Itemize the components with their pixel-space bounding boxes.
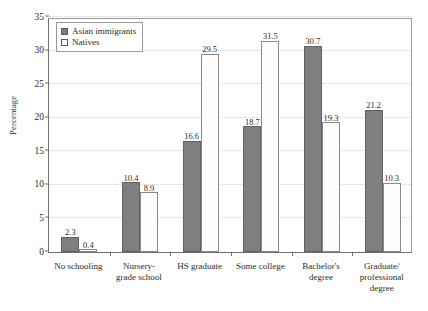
bar: 2.3 xyxy=(61,237,79,252)
x-tick-mark xyxy=(110,252,111,256)
y-tick-label: 10 xyxy=(35,180,45,190)
bar-chart-figure: Percentage 05101520253035 2.30.410.48.91… xyxy=(0,0,428,311)
y-tick-mark xyxy=(45,183,49,184)
y-tick-label: 0 xyxy=(39,247,44,257)
filled-square-swatch xyxy=(61,28,68,35)
y-tick-mark xyxy=(45,116,49,117)
x-tick-mark xyxy=(292,252,293,256)
bar: 18.7 xyxy=(243,126,261,252)
x-tick-label: HS graduate xyxy=(169,261,230,272)
x-tick-label: No schooling xyxy=(48,261,109,272)
y-tick-mark xyxy=(45,217,49,218)
y-tick-label: 20 xyxy=(35,113,45,123)
bar-value-label: 31.5 xyxy=(263,32,278,41)
bar-value-label: 8.9 xyxy=(144,184,155,193)
y-tick-mark xyxy=(45,49,49,50)
x-tick-label: Some college xyxy=(230,261,291,272)
y-tick-mark xyxy=(45,251,49,252)
bar-value-label: 18.7 xyxy=(245,118,260,127)
plot-area: 05101520253035 2.30.410.48.916.629.518.7… xyxy=(48,18,412,253)
bar-value-label: 2.3 xyxy=(65,228,76,237)
open-square-swatch xyxy=(61,39,68,46)
bar: 0.4 xyxy=(79,249,97,252)
bar: 21.2 xyxy=(365,110,383,252)
bar-value-label: 10.3 xyxy=(384,174,399,183)
y-tick-mark xyxy=(45,150,49,151)
bar-value-label: 10.4 xyxy=(124,174,139,183)
bar-value-label: 30.7 xyxy=(306,37,321,46)
x-tick-mark xyxy=(352,252,353,256)
legend-item-natives: Natives xyxy=(61,37,136,48)
legend-label: Asian immigrants xyxy=(72,26,136,37)
bar: 10.3 xyxy=(383,183,401,252)
y-tick-label: 5 xyxy=(39,214,44,224)
bar-value-label: 16.6 xyxy=(184,132,199,141)
bar: 29.5 xyxy=(201,54,219,252)
x-tick-mark xyxy=(231,252,232,256)
legend-item-asian-immigrants: Asian immigrants xyxy=(61,26,136,37)
x-tick-mark xyxy=(170,252,171,256)
y-tick-label: 30 xyxy=(35,46,45,56)
legend-label: Natives xyxy=(72,37,100,48)
gridline xyxy=(49,16,411,17)
y-tick-label: 15 xyxy=(35,147,45,157)
chart-legend: Asian immigrants Natives xyxy=(56,22,143,52)
bar: 30.7 xyxy=(304,46,322,252)
bar: 16.6 xyxy=(183,141,201,252)
y-tick-mark xyxy=(45,16,49,17)
gridline xyxy=(49,83,411,84)
x-tick-label: Graduate/professionaldegree xyxy=(351,261,412,294)
x-tick-label: Bachelor'sdegree xyxy=(291,261,352,283)
bar-value-label: 21.2 xyxy=(366,101,381,110)
y-tick-label: 35 xyxy=(35,12,45,22)
y-tick-label: 25 xyxy=(35,79,45,89)
bar: 19.3 xyxy=(322,122,340,252)
gridline xyxy=(49,184,411,185)
bar: 10.4 xyxy=(122,182,140,252)
y-tick-mark xyxy=(45,83,49,84)
gridline xyxy=(49,217,411,218)
y-axis-title: Percentage xyxy=(8,96,18,135)
bar-value-label: 0.4 xyxy=(83,241,94,250)
x-tick-label: Nursery-grade school xyxy=(109,261,170,283)
gridline xyxy=(49,117,411,118)
bar-value-label: 29.5 xyxy=(202,45,217,54)
bar: 8.9 xyxy=(140,192,158,252)
bar: 31.5 xyxy=(261,41,279,253)
gridline xyxy=(49,150,411,151)
bar-value-label: 19.3 xyxy=(324,114,339,123)
